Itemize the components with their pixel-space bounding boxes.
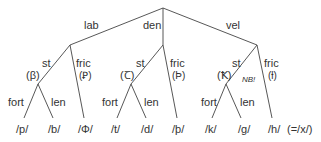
- vel-st-label: st: [232, 58, 241, 69]
- edge-root-vel: [163, 8, 257, 45]
- leaf-phi: /Φ/: [78, 124, 93, 135]
- den-fric-symbol: (Þ): [172, 70, 185, 81]
- branch-label-den: den: [143, 20, 161, 31]
- leaf-b: /b/: [48, 124, 60, 135]
- edge-den-fort: [117, 84, 131, 118]
- leaf-h-note: (=/x/): [287, 124, 312, 135]
- vel-len-label: len: [240, 97, 255, 108]
- den-fric-label: fric: [170, 58, 185, 69]
- vel-fric-symbol: (ƚ): [268, 70, 277, 81]
- lab-st-symbol: (β): [26, 70, 40, 81]
- lab-fric-symbol: (Ꝑ): [79, 70, 92, 81]
- branch-label-vel: vel: [226, 20, 240, 31]
- den-fort-label: fort: [102, 97, 118, 108]
- leaf-h: /h/: [268, 124, 280, 135]
- den-len-label: len: [144, 97, 159, 108]
- edge-lab-fric: [70, 45, 84, 118]
- vel-fric-label: fric: [264, 58, 279, 69]
- vel-nb-note: NB!: [242, 74, 255, 85]
- branch-label-lab: lab: [84, 20, 99, 31]
- leaf-d: /d/: [141, 124, 153, 135]
- lab-st-label: st: [42, 58, 51, 69]
- den-st-symbol: (Ꞇ): [120, 70, 134, 81]
- edge-vel-fric: [257, 45, 272, 118]
- leaf-p: /p/: [16, 124, 28, 135]
- edge-lab-fort: [24, 84, 38, 118]
- leaf-t: /t/: [111, 124, 120, 135]
- lab-fric-label: fric: [76, 58, 91, 69]
- lab-len-label: len: [51, 97, 66, 108]
- den-st-label: st: [136, 58, 145, 69]
- vel-st-symbol: (Ꝁ): [217, 70, 231, 81]
- lab-fort-label: fort: [8, 97, 24, 108]
- leaf-thorn: /þ/: [172, 124, 184, 135]
- edge-vel-len: [226, 84, 241, 118]
- vel-fort-label: fort: [201, 97, 217, 108]
- leaf-g: /g/: [238, 124, 250, 135]
- leaf-k: /k/: [205, 124, 217, 135]
- edge-den-fric: [163, 45, 177, 118]
